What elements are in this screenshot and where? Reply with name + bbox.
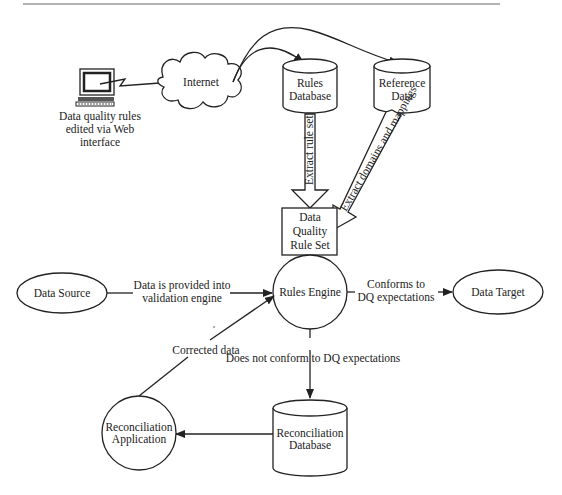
corrected-data-arrow: Corrected data [139,296,274,396]
svg-text:Reference: Reference [379,77,426,89]
svg-text:Extract rule set: Extract rule set [303,115,315,185]
svg-text:Data Source: Data Source [34,287,91,299]
rules-database: Rules Database [283,59,337,113]
svg-text:Quality: Quality [293,225,328,238]
svg-text:Conforms to: Conforms to [367,278,425,290]
computer-icon [76,69,114,106]
svg-text:Database: Database [289,439,331,451]
data-source: Data Source [17,273,107,313]
data-quality-diagram: Data quality rules edited via Web interf… [0,0,562,495]
svg-text:Data is provided into: Data is provided into [134,279,231,292]
svg-text:Rules Engine: Rules Engine [279,286,341,299]
stray-dot [213,326,215,328]
web-client-label: Data quality rules edited via Web interf… [59,110,141,148]
svg-text:Internet: Internet [183,76,220,88]
data-provided-arrow: Data is provided into validation engine [107,279,272,305]
svg-text:Reconciliation: Reconciliation [276,427,343,439]
svg-text:Does not conform to DQ expecta: Does not conform to DQ expectations [226,352,401,365]
reconciliation-database: Reconciliation Database [273,400,347,476]
svg-text:Data quality rules: Data quality rules [59,110,141,123]
svg-text:Reconciliation: Reconciliation [105,421,172,433]
data-target: Data Target [453,270,543,314]
svg-text:Rule Set: Rule Set [290,239,330,251]
svg-text:validation engine: validation engine [142,292,222,305]
svg-text:Application: Application [112,433,167,446]
svg-text:Corrected data: Corrected data [172,344,239,356]
rules-engine: Rules Engine [273,255,347,329]
svg-text:interface: interface [80,136,120,148]
reconciliation-application: Reconciliation Application [102,396,176,470]
svg-text:Data Target: Data Target [471,286,525,299]
extract-rule-set-arrow: Extract rule set [292,114,328,208]
svg-text:edited via Web: edited via Web [66,123,135,135]
svg-text:Rules: Rules [297,77,324,89]
internet-cloud: Internet [158,52,241,108]
svg-text:DQ expectations: DQ expectations [358,291,435,304]
conforms-arrow: Conforms to DQ expectations [347,278,452,304]
svg-text:Data: Data [299,211,321,223]
svg-text:Database: Database [289,90,331,102]
dq-rule-set: Data Quality Rule Set [282,208,337,255]
not-conform-arrow: Does not conform to DQ expectations [226,329,401,398]
